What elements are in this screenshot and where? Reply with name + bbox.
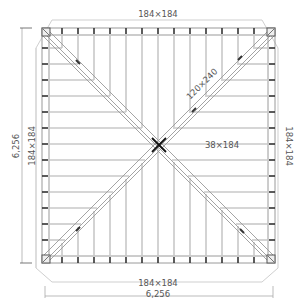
top-beam-label: 184×184 bbox=[138, 9, 178, 19]
bottom-overall-dimension: 6,256 bbox=[146, 289, 170, 299]
right-beam-label: 184×184 bbox=[284, 126, 294, 166]
framing-plan-diagram: 184×184 184×184 6,256 6,256 184×184 184×… bbox=[0, 0, 306, 308]
left-overall-dimension: 6,256 bbox=[11, 134, 21, 158]
top-overhang-outline bbox=[36, 20, 278, 48]
jack-rafter-label: 38×184 bbox=[205, 140, 239, 150]
bottom-beam-label: 184×184 bbox=[138, 278, 178, 288]
left-beam-label: 184×184 bbox=[27, 126, 37, 166]
